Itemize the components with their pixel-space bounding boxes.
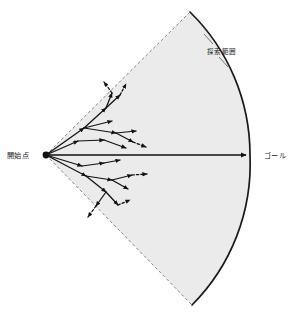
tree-branch-pruned	[88, 206, 96, 217]
start-point-dot	[43, 152, 50, 159]
start-point-label: 開始点	[7, 151, 29, 160]
diagram-root: 開始点 ゴール 探索範囲	[0, 0, 299, 318]
sector-fill	[46, 12, 250, 305]
search-range-label: 探索範囲	[207, 47, 236, 56]
tree-branch-pruned	[104, 82, 112, 93]
search-range-diagram: 開始点 ゴール 探索範囲	[0, 0, 299, 318]
goal-label: ゴール	[264, 151, 286, 160]
search-range-sector	[46, 12, 250, 305]
